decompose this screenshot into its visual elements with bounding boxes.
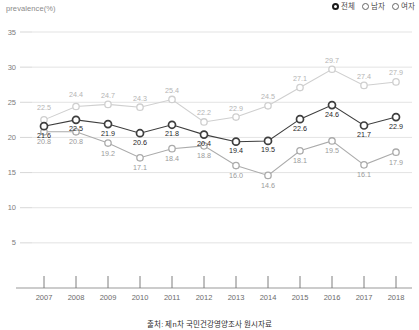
data-label-total: 21.7 xyxy=(357,130,371,139)
data-point-total[interactable] xyxy=(393,114,400,121)
data-point-total[interactable] xyxy=(361,122,368,129)
legend-label-female: 여자 xyxy=(401,3,415,11)
data-label-male: 24.7 xyxy=(101,91,115,100)
data-point-male[interactable] xyxy=(265,103,271,109)
data-label-female: 16.0 xyxy=(229,171,243,180)
data-label-total: 24.6 xyxy=(325,110,339,119)
data-point-total[interactable] xyxy=(233,138,240,145)
data-label-female: 17.9 xyxy=(389,158,403,167)
y-axis-tick-label: 5 xyxy=(12,238,16,247)
data-point-male[interactable] xyxy=(233,114,239,120)
x-axis-tick-label: 2013 xyxy=(228,293,245,302)
data-label-total: 22.9 xyxy=(389,122,403,131)
y-axis-tick-label: 30 xyxy=(8,63,16,72)
data-point-female[interactable] xyxy=(297,148,303,154)
data-point-female[interactable] xyxy=(233,162,239,168)
data-point-total[interactable] xyxy=(73,116,80,123)
chart-legend: 전체 남자 여자 xyxy=(332,3,415,11)
data-label-female: 19.5 xyxy=(325,146,339,155)
y-axis-tick-label: 10 xyxy=(8,203,16,212)
data-point-total[interactable] xyxy=(329,102,336,109)
data-label-female: 17.1 xyxy=(133,163,147,172)
legend-label-total: 전체 xyxy=(341,3,355,11)
series-line-total xyxy=(44,105,396,142)
legend-item-female[interactable]: 여자 xyxy=(392,3,415,11)
data-point-female[interactable] xyxy=(169,145,175,151)
y-axis-labels: 5101520253035 xyxy=(8,28,16,248)
data-point-male[interactable] xyxy=(169,96,175,102)
series-lines xyxy=(44,69,396,175)
data-point-total[interactable] xyxy=(169,121,176,128)
x-axis-labels: 2007200820092010201120122013201420152016… xyxy=(36,293,405,302)
data-point-male[interactable] xyxy=(297,84,303,90)
data-label-male: 25.4 xyxy=(165,86,179,95)
data-label-male: 22.2 xyxy=(197,108,211,117)
data-label-male: 29.7 xyxy=(325,56,339,65)
x-axis-tick-label: 2009 xyxy=(100,293,117,302)
x-axis-tick-label: 2010 xyxy=(132,293,149,302)
y-axis-tick-label: 35 xyxy=(8,28,16,37)
data-label-female: 18.8 xyxy=(197,151,211,160)
x-axis-ticks xyxy=(44,276,396,288)
data-label-male: 24.3 xyxy=(133,94,147,103)
data-label-total: 19.5 xyxy=(261,145,275,154)
data-label-female: 20.8 xyxy=(37,137,51,146)
data-label-total: 20.4 xyxy=(197,139,211,148)
chart-screenshot: prevalence(%) 전체 남자 여자 5101520253035 200… xyxy=(0,0,419,330)
data-point-male[interactable] xyxy=(137,104,143,110)
y-axis-tick-label: 20 xyxy=(8,133,16,142)
radio-icon[interactable] xyxy=(392,3,399,10)
legend-item-male[interactable]: 남자 xyxy=(362,3,385,11)
data-point-total[interactable] xyxy=(137,130,144,137)
x-axis-tick-label: 2014 xyxy=(260,293,277,302)
x-axis-tick-label: 2008 xyxy=(68,293,85,302)
data-label-male: 24.4 xyxy=(69,90,83,99)
data-label-male: 27.4 xyxy=(357,72,371,81)
data-point-male[interactable] xyxy=(201,119,207,125)
data-label-female: 18.4 xyxy=(165,154,179,163)
y-axis-tick-label: 25 xyxy=(8,98,16,107)
data-label-male: 27.1 xyxy=(293,74,307,83)
data-point-total[interactable] xyxy=(265,137,272,144)
data-label-total: 20.6 xyxy=(133,138,147,147)
x-axis-tick-label: 2016 xyxy=(324,293,341,302)
radio-icon[interactable] xyxy=(362,3,369,10)
x-axis-tick-label: 2017 xyxy=(356,293,373,302)
data-label-female: 19.2 xyxy=(101,149,115,158)
data-point-female[interactable] xyxy=(329,138,335,144)
y-axis-tick-label: 15 xyxy=(8,168,16,177)
data-point-female[interactable] xyxy=(361,162,367,168)
data-label-female: 18.1 xyxy=(293,156,307,165)
data-point-male[interactable] xyxy=(361,82,367,88)
data-label-total: 21.9 xyxy=(101,129,115,138)
data-point-male[interactable] xyxy=(73,103,79,109)
data-point-female[interactable] xyxy=(137,155,143,161)
data-label-male: 24.5 xyxy=(261,92,275,101)
data-point-female[interactable] xyxy=(105,140,111,146)
data-label-total: 19.4 xyxy=(229,146,243,155)
data-point-female[interactable] xyxy=(393,149,399,155)
chart-svg: 5101520253035 20072008200920102011201220… xyxy=(0,18,419,308)
data-point-total[interactable] xyxy=(105,121,112,128)
data-point-male[interactable] xyxy=(393,79,399,85)
x-axis-tick-label: 2007 xyxy=(36,293,53,302)
data-point-labels: 21.622.521.920.621.820.419.419.522.624.6… xyxy=(37,56,403,190)
data-point-male[interactable] xyxy=(329,66,335,72)
data-label-total: 21.8 xyxy=(165,129,179,138)
data-point-total[interactable] xyxy=(41,123,48,130)
data-point-female[interactable] xyxy=(265,172,271,178)
data-label-male: 27.9 xyxy=(389,68,403,77)
line-chart-plot: 5101520253035 20072008200920102011201220… xyxy=(0,18,419,308)
data-label-female: 20.8 xyxy=(69,137,83,146)
data-label-total: 22.5 xyxy=(69,124,83,133)
data-point-total[interactable] xyxy=(297,116,304,123)
data-label-male: 22.9 xyxy=(229,104,243,113)
x-axis-tick-label: 2011 xyxy=(164,293,180,302)
data-point-total[interactable] xyxy=(201,131,208,138)
radio-filled-icon[interactable] xyxy=(332,3,339,10)
x-axis-tick-label: 2018 xyxy=(388,293,405,302)
data-label-total: 22.6 xyxy=(293,124,307,133)
legend-item-total[interactable]: 전체 xyxy=(332,3,355,11)
x-axis-tick-label: 2012 xyxy=(196,293,213,302)
data-point-male[interactable] xyxy=(105,101,111,107)
